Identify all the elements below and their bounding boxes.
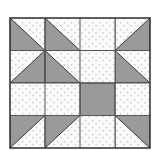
quilt-block-canvas bbox=[0, 0, 159, 150]
center-square bbox=[80, 83, 115, 116]
quilt-block-diagram bbox=[0, 0, 159, 150]
